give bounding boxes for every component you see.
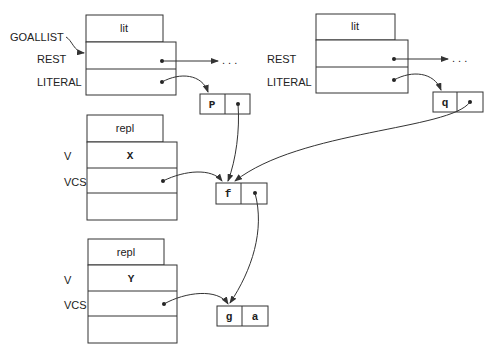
record-type-label: repl <box>117 246 135 258</box>
v-value: X <box>127 150 134 162</box>
cons-cell-p: P <box>200 94 250 114</box>
cons-cell-q: q <box>433 92 483 112</box>
ellipsis-2: . . . <box>452 52 467 64</box>
record-type-label: lit <box>351 20 359 32</box>
record-type-label: lit <box>120 22 128 34</box>
lit-record-2: lit REST LITERAL <box>267 14 408 93</box>
field-label-v: V <box>64 150 72 162</box>
lit-record-1: lit GOALLIST REST LITERAL <box>10 15 176 95</box>
field-label-v: V <box>64 274 72 286</box>
q-to-f-arrow <box>235 102 470 181</box>
record-type-label: repl <box>116 122 134 134</box>
field-label-rest: REST <box>267 53 297 65</box>
field-label-rest: REST <box>37 53 67 65</box>
ellipsis-1: . . . <box>222 54 237 66</box>
cell-value: f <box>225 188 232 200</box>
repl-record-1: repl V VCS X <box>64 115 177 220</box>
cell-value: q <box>442 97 449 109</box>
cell-value: P <box>209 99 216 111</box>
field-label-vcs: VCS <box>64 176 87 188</box>
field-label-vcs: VCS <box>64 299 87 311</box>
cons-cell-f: f <box>216 183 267 204</box>
f-to-g-arrow <box>230 193 258 303</box>
goallist-label: GOALLIST <box>10 31 64 43</box>
v-value: Y <box>128 273 135 285</box>
p-to-f-arrow <box>228 104 239 181</box>
cons-cell-g-a: g a <box>217 306 268 326</box>
goallist-pointer <box>66 37 84 53</box>
cell-value-right: a <box>252 311 259 323</box>
cell-value-left: g <box>226 311 233 323</box>
field-label-literal: LITERAL <box>37 76 82 88</box>
repl-record-2: repl V VCS Y <box>64 239 177 343</box>
diagram-canvas: lit GOALLIST REST LITERAL . . . P lit RE… <box>0 0 496 359</box>
field-label-literal: LITERAL <box>267 76 312 88</box>
